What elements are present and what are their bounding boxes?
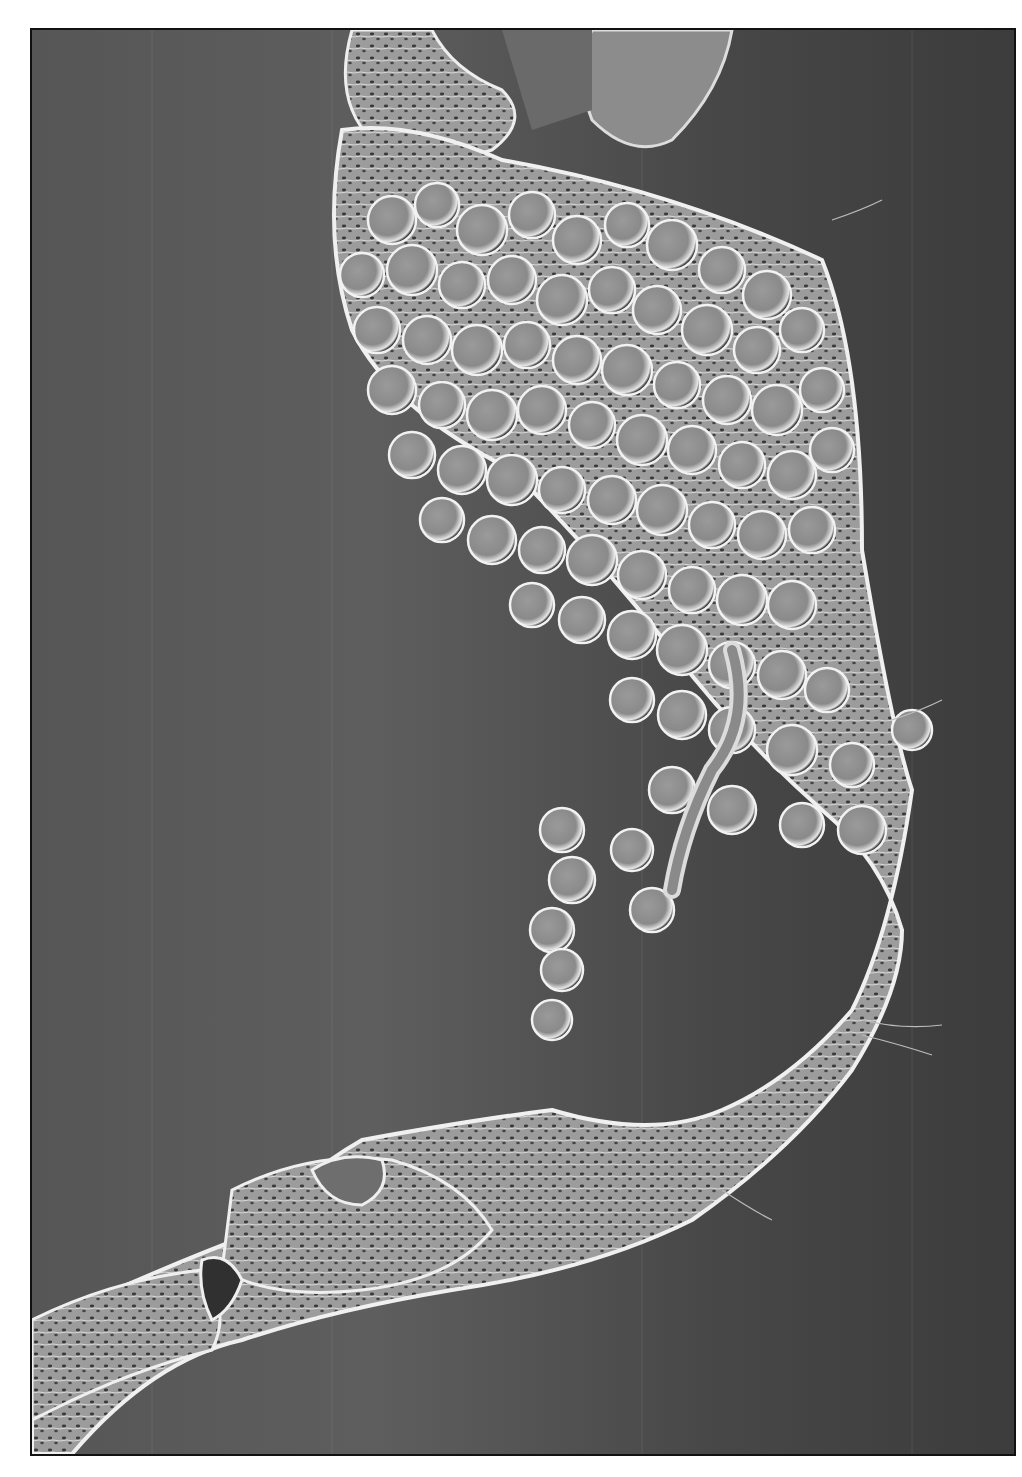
micrograph-frame — [30, 28, 1016, 1456]
micrograph-image — [32, 30, 1014, 1454]
